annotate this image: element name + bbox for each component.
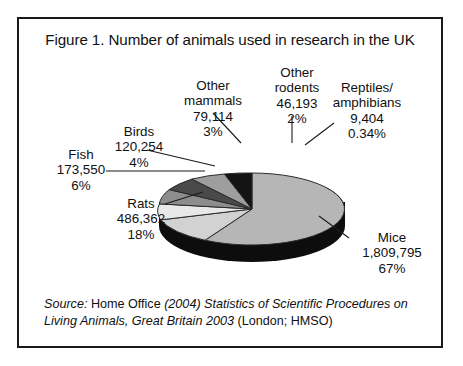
slice-name: Other bbox=[165, 78, 261, 93]
slice-name: Rats bbox=[95, 196, 187, 211]
slice-label-mice: Mice 1,809,795 67% bbox=[337, 230, 447, 276]
figure-frame: Figure 1. Number of animals used in rese… bbox=[17, 17, 443, 348]
slice-name: Mice bbox=[337, 230, 447, 245]
slice-label-reptiles-amphibians: Reptiles/ amphibians 9,404 0.34% bbox=[315, 80, 419, 142]
source-imprint: (London; HMSO) bbox=[237, 314, 332, 328]
slice-value: 173,550 bbox=[39, 162, 123, 177]
source-publisher: Home Office bbox=[91, 297, 161, 311]
slice-name: Fish bbox=[39, 147, 123, 162]
slice-percent: 67% bbox=[337, 261, 447, 276]
slice-name-2: amphibians bbox=[315, 95, 419, 110]
slice-percent: 6% bbox=[39, 178, 123, 193]
slice-value: 1,809,795 bbox=[337, 245, 447, 260]
slice-value: 486,362 bbox=[95, 211, 187, 226]
source-label: Source: bbox=[44, 297, 87, 311]
slice-name: Other bbox=[256, 65, 338, 80]
slice-name: Reptiles/ bbox=[315, 80, 419, 95]
slice-percent: 0.34% bbox=[315, 126, 419, 141]
slice-label-fish: Fish 173,550 6% bbox=[39, 147, 123, 193]
slice-name-2: mammals bbox=[165, 93, 261, 108]
source-note: Source: Home Office (2004) Statistics of… bbox=[44, 296, 426, 330]
slice-percent: 18% bbox=[95, 227, 187, 242]
slice-value: 9,404 bbox=[315, 111, 419, 126]
slice-label-rats: Rats 486,362 18% bbox=[95, 196, 187, 242]
slice-value: 79,114 bbox=[165, 109, 261, 124]
slice-name: Birds bbox=[93, 124, 185, 139]
